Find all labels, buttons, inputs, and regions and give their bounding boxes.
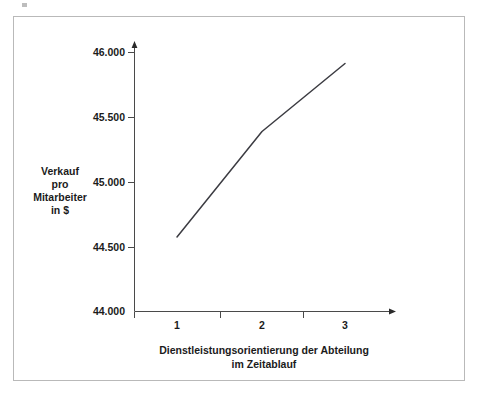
y-axis-title-line-1: pro <box>52 178 69 190</box>
y-axis-title-line-0: Verkauf <box>41 165 79 177</box>
x-tick-label-1: 2 <box>259 319 265 331</box>
y-tick-label-3: 44.500 <box>93 241 125 253</box>
x-axis-title-line-1: im Zeitablauf <box>232 358 297 370</box>
y-tick-label-0: 46.000 <box>93 46 125 58</box>
scan-speck <box>22 3 27 7</box>
y-tick-label-1: 45.500 <box>93 111 125 123</box>
x-tick-label-2: 3 <box>342 319 348 331</box>
line-chart: 46.000 45.500 45.000 44.500 44.000 1 2 3… <box>0 0 478 396</box>
x-tick-label-0: 1 <box>174 319 180 331</box>
y-tick-label-4: 44.000 <box>93 305 125 317</box>
x-axis-arrow-icon <box>389 309 396 315</box>
y-axis-title-line-2: Mitarbeiter <box>33 191 87 203</box>
y-axis-arrow-icon <box>132 41 138 48</box>
y-axis-title-line-3: in $ <box>51 204 69 216</box>
y-tick-label-2: 45.000 <box>93 176 125 188</box>
data-series-line <box>177 64 345 238</box>
x-axis-title-line-0: Dienstleistungsorientierung der Abteilun… <box>159 344 369 356</box>
